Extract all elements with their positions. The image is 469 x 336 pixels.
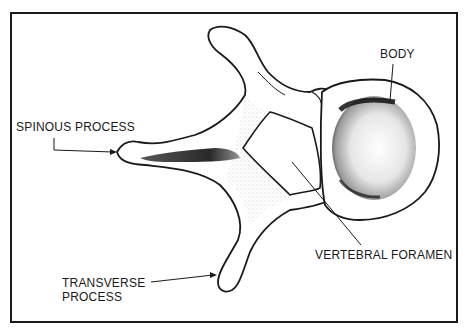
- label-spinous-process: SPINOUS PROCESS: [16, 120, 135, 134]
- label-transverse-process: TRANSVERSE PROCESS: [62, 276, 145, 304]
- label-transverse-line1: TRANSVERSE: [62, 276, 145, 290]
- label-body: BODY: [380, 47, 415, 61]
- label-transverse-line2: PROCESS: [62, 290, 145, 304]
- label-vertebral-foramen: VERTEBRAL FORAMEN: [315, 248, 452, 262]
- vertebral-body: [321, 80, 439, 221]
